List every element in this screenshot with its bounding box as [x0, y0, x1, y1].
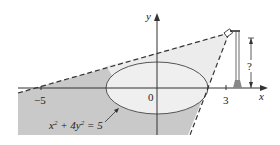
y-axis-label: y — [145, 10, 151, 22]
tick-label-3: 3 — [223, 94, 229, 106]
tick-label-0: 0 — [148, 91, 154, 103]
height-label: ? — [247, 60, 252, 72]
x-axis-label: x — [258, 90, 264, 102]
tick-label-neg5: −5 — [34, 94, 46, 106]
lamp-base-icon — [233, 80, 242, 88]
diagram: ? −5 0 3 x y x2 + 4y2 = 5 — [0, 0, 280, 145]
y-axis-arrow-icon — [154, 13, 160, 21]
